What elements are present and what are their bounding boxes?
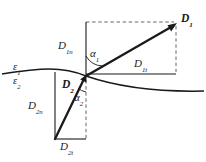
label-angle-alpha2: α2: [74, 92, 83, 103]
label-angle-alpha1: α1: [90, 48, 99, 59]
dielectric-interface-curve: [2, 69, 204, 91]
label-vector-d1: D1: [181, 13, 193, 25]
label-d1-tangential: D1t: [134, 58, 147, 69]
figure-canvas: [0, 0, 206, 162]
label-d2-normal: D2n: [28, 100, 43, 111]
label-d2-tangential: D2t: [60, 141, 73, 152]
label-permittivity-1: ε1: [13, 62, 20, 73]
label-d1-normal: D1n: [58, 40, 73, 51]
label-permittivity-2: ε2: [13, 76, 20, 87]
dielectric-interface-figure: D1 D1n α1 D1t ε1 ε2 D2 α2 D2n D2t: [0, 0, 206, 162]
label-vector-d2: D2: [62, 79, 74, 91]
